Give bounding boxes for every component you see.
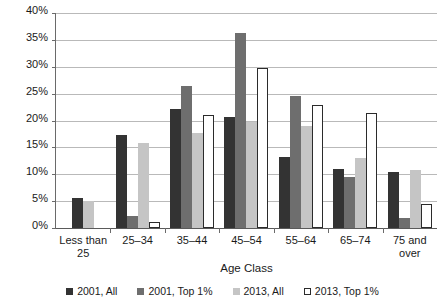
bar bbox=[181, 86, 192, 228]
bar bbox=[279, 157, 290, 228]
bar bbox=[116, 135, 127, 228]
legend-swatch bbox=[233, 288, 240, 295]
x-axis-tick-mark bbox=[165, 228, 166, 233]
y-axis-tick-label: 30% bbox=[26, 59, 48, 70]
chart-legend: 2001, All2001, Top 1%2013, All2013, Top … bbox=[0, 285, 445, 297]
y-axis-tick-label: 10% bbox=[26, 166, 48, 177]
bar bbox=[246, 122, 257, 228]
legend-swatch bbox=[137, 288, 144, 295]
x-axis-tick-mark bbox=[274, 228, 275, 233]
bar bbox=[312, 105, 323, 228]
legend-item[interactable]: 2001, All bbox=[66, 285, 117, 297]
gridline bbox=[56, 228, 437, 229]
bar bbox=[399, 218, 410, 228]
bar bbox=[138, 143, 149, 228]
bar-chart: 0%5%10%15%20%25%30%35%40% Less than 2525… bbox=[0, 0, 445, 303]
legend-swatch bbox=[66, 288, 73, 295]
x-axis-tick-mark bbox=[328, 228, 329, 233]
y-axis-tick-label: 15% bbox=[26, 139, 48, 150]
bar bbox=[290, 96, 301, 228]
bar bbox=[235, 33, 246, 228]
bar bbox=[366, 113, 377, 228]
y-axis-tick-label: 20% bbox=[26, 113, 48, 124]
bar bbox=[83, 201, 94, 228]
bar bbox=[149, 222, 160, 228]
bar bbox=[410, 170, 421, 228]
bar-group bbox=[219, 13, 273, 228]
legend-item[interactable]: 2001, Top 1% bbox=[137, 285, 212, 297]
legend-item[interactable]: 2013, All bbox=[233, 285, 284, 297]
bar-group bbox=[383, 13, 437, 228]
bar-group bbox=[56, 13, 110, 228]
bar-group bbox=[328, 13, 382, 228]
bar-group bbox=[165, 13, 219, 228]
bar bbox=[388, 172, 399, 228]
bar bbox=[344, 177, 355, 228]
plot-area bbox=[56, 13, 437, 228]
bar bbox=[224, 117, 235, 228]
x-axis-tick-mark bbox=[219, 228, 220, 233]
y-axis-tick-label: 40% bbox=[26, 5, 48, 16]
bar bbox=[72, 198, 83, 228]
bar bbox=[192, 133, 203, 228]
x-axis-tick-mark bbox=[110, 228, 111, 233]
bar-group bbox=[274, 13, 328, 228]
bar bbox=[355, 158, 366, 228]
y-axis-tick-label: 5% bbox=[32, 193, 48, 204]
bar bbox=[421, 204, 432, 228]
legend-swatch bbox=[304, 288, 311, 295]
y-axis-tick-label: 0% bbox=[32, 220, 48, 231]
legend-item[interactable]: 2013, Top 1% bbox=[304, 285, 379, 297]
y-axis-tick-label: 25% bbox=[26, 86, 48, 97]
bar bbox=[203, 115, 214, 228]
legend-label: 2013, Top 1% bbox=[315, 285, 379, 297]
y-axis-tick-label: 35% bbox=[26, 32, 48, 43]
x-axis-tick-mark bbox=[383, 228, 384, 233]
x-axis-title: Age Class bbox=[56, 262, 437, 274]
y-axis-ticks: 0%5%10%15%20%25%30%35%40% bbox=[0, 13, 56, 228]
bar bbox=[170, 109, 181, 228]
bar-groups bbox=[56, 13, 437, 228]
bar bbox=[127, 216, 138, 228]
legend-label: 2001, All bbox=[77, 285, 117, 297]
legend-label: 2001, Top 1% bbox=[148, 285, 212, 297]
legend-label: 2013, All bbox=[244, 285, 284, 297]
bar bbox=[257, 68, 268, 228]
bar-group bbox=[110, 13, 164, 228]
bar bbox=[333, 169, 344, 228]
bar bbox=[301, 126, 312, 228]
